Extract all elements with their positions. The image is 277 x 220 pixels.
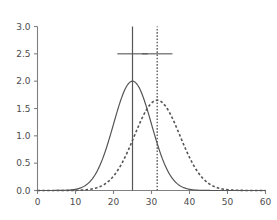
- x-tick-label: 20: [108, 197, 120, 207]
- y-tick-label: 1.0: [16, 131, 31, 141]
- x-tick-label: 30: [146, 197, 158, 207]
- y-tick-label: 0.5: [16, 158, 30, 168]
- chart-figure: 0.00.51.01.52.02.53.0 0102030405060: [0, 0, 277, 220]
- x-tick-label: 10: [70, 197, 82, 207]
- x-tick-label: 0: [35, 197, 41, 207]
- x-tick-label: 50: [222, 197, 234, 207]
- dashed-density-curve: [38, 100, 266, 190]
- y-axis-tick-labels: 0.00.51.01.52.02.53.0: [16, 22, 31, 196]
- x-tick-label: 60: [260, 197, 272, 207]
- x-axis-tick-labels: 0102030405060: [35, 197, 272, 207]
- y-tick-label: 0.0: [16, 186, 31, 196]
- y-tick-label: 2.5: [16, 49, 30, 59]
- y-tick-label: 1.5: [16, 104, 30, 114]
- normal-distribution-plot: 0.00.51.01.52.02.53.0 0102030405060: [0, 0, 277, 220]
- y-tick-label: 2.0: [16, 76, 31, 86]
- solid-density-curve: [38, 81, 266, 190]
- x-tick-label: 40: [184, 197, 196, 207]
- y-tick-label: 3.0: [16, 22, 31, 32]
